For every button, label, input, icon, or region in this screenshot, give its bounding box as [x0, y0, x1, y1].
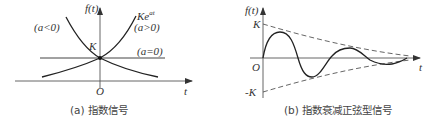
panel-a-label-a-lt-0: (a<0): [34, 22, 60, 33]
panel-a-growth-label-main: Ke: [137, 10, 149, 22]
panel-a-growth-label: Keat: [137, 8, 155, 22]
panel-b-x-axis-label: t: [419, 62, 422, 73]
panel-a-exponential: [15, 8, 192, 88]
panel-b-y-axis-label: f(t): [245, 5, 258, 16]
panel-a-k-label: K: [89, 41, 96, 52]
panel-b-caption: (b) 指数衰减正弦型信号: [284, 104, 392, 116]
panel-a-x-axis-label: t: [184, 86, 187, 97]
panel-b-k-label: K: [253, 19, 260, 30]
panel-a-growth-label-exp: at: [149, 9, 154, 17]
panel-a-label-a-eq-0: (a=0): [137, 46, 163, 57]
panel-b-damped-sine: [250, 8, 420, 98]
panel-a-origin-label: O: [96, 86, 104, 97]
panel-b-origin-label: O: [252, 62, 260, 73]
panel-b-neg-k-label: -K: [245, 87, 256, 98]
panel-b-signal-curve: [263, 32, 407, 77]
panel-a-caption: (a) 指数信号: [70, 104, 128, 116]
panel-a-label-a-gt-0: (a>0): [134, 22, 160, 33]
panel-a-k-point: [98, 56, 102, 60]
panel-a-y-axis-label: f(t): [85, 3, 98, 14]
